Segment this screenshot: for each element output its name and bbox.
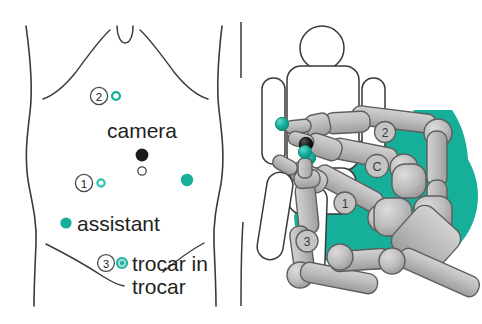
assistant-label: assistant xyxy=(77,212,160,235)
port-3-inner-trocar xyxy=(120,261,124,265)
trocar-label-line2: trocar xyxy=(132,275,186,298)
arm-2-column xyxy=(427,131,447,187)
cart-bridge-joint-2 xyxy=(379,248,405,274)
tip-arm-2[interactable] xyxy=(275,117,288,130)
camera-label: camera xyxy=(107,119,177,142)
tip-arm-3[interactable] xyxy=(298,145,311,158)
port-marker-3[interactable]: 3 xyxy=(98,255,128,272)
port-2-number: 2 xyxy=(96,91,102,103)
figure-canvas: 2 camera 1 assistant 3 xyxy=(0,0,482,324)
patient-head xyxy=(300,26,344,70)
arm-3-instrument-shaft xyxy=(298,158,312,178)
port-1-number: 1 xyxy=(81,178,87,190)
cart-pad-a xyxy=(392,164,426,198)
assistant-port-marker[interactable] xyxy=(60,217,71,228)
camera-port-marker[interactable] xyxy=(136,149,149,162)
cart-bridge-joint xyxy=(327,244,353,270)
umbilicus-marker xyxy=(138,167,146,175)
trocar-label-line1: trocar in xyxy=(132,252,208,275)
arm-1-label: 1 xyxy=(342,197,349,211)
port-marker-right-teal[interactable] xyxy=(181,174,193,186)
arm-c-label: C xyxy=(372,160,381,174)
port-3-number: 3 xyxy=(103,258,109,270)
arm-3-label: 3 xyxy=(304,235,311,249)
surgical-robot-figure: 2 camera 1 assistant 3 xyxy=(0,0,482,324)
arm-2-label: 2 xyxy=(382,126,389,140)
